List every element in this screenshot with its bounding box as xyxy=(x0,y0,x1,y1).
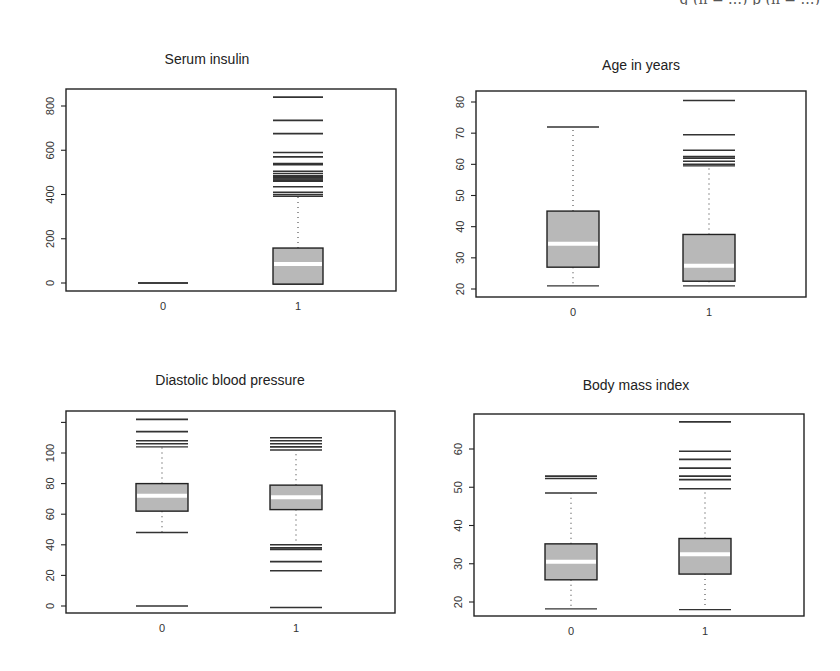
x-category-label: 0 xyxy=(159,622,165,634)
plot-frame xyxy=(474,414,804,616)
box-group-1: 1 xyxy=(273,97,323,312)
iqr-box xyxy=(547,211,599,267)
panel-diastolic-blood-pressure: Diastolic blood pressure02040608010001 xyxy=(44,372,395,634)
panel-body-mass-index: Body mass index203040506001 xyxy=(452,377,804,637)
box-group-0: 0 xyxy=(545,476,597,637)
box-group-1: 1 xyxy=(270,438,322,634)
y-tick-label: 60 xyxy=(44,508,56,520)
panel-title: Diastolic blood pressure xyxy=(155,372,305,388)
x-category-label: 1 xyxy=(293,622,299,634)
y-tick-label: 600 xyxy=(44,141,56,159)
x-category-label: 0 xyxy=(160,300,166,312)
y-tick-label: 30 xyxy=(454,252,466,264)
y-tick-label: 40 xyxy=(44,539,56,551)
panel-title: Age in years xyxy=(602,57,680,73)
boxplot-figure: Serum insulin020040060080001Age in years… xyxy=(0,0,840,671)
y-tick-label: 30 xyxy=(452,558,464,570)
y-tick-label: 200 xyxy=(44,230,56,248)
y-tick-label: 400 xyxy=(44,185,56,203)
iqr-box xyxy=(683,234,735,281)
y-tick-label: 20 xyxy=(44,569,56,581)
plot-frame xyxy=(66,89,396,291)
y-tick-label: 80 xyxy=(454,96,466,108)
box-group-0: 0 xyxy=(138,283,188,312)
box-group-1: 1 xyxy=(679,422,731,637)
panel-title: Serum insulin xyxy=(165,51,250,67)
y-tick-label: 800 xyxy=(44,97,56,115)
x-category-label: 0 xyxy=(568,625,574,637)
y-tick-label: 60 xyxy=(454,158,466,170)
y-tick-label: 100 xyxy=(44,444,56,462)
x-category-label: 1 xyxy=(706,306,712,318)
y-tick-label: 20 xyxy=(454,283,466,295)
y-tick-label: 0 xyxy=(44,280,56,286)
iqr-box xyxy=(273,248,323,284)
plot-frame xyxy=(66,411,395,613)
x-category-label: 0 xyxy=(570,306,576,318)
y-tick-label: 50 xyxy=(454,189,466,201)
panel-age-in-years: Age in years2030405060708001 xyxy=(454,57,806,318)
y-tick-label: 50 xyxy=(452,481,464,493)
x-category-label: 1 xyxy=(295,300,301,312)
box-group-0: 0 xyxy=(136,419,188,634)
y-tick-label: 40 xyxy=(454,221,466,233)
panel-title: Body mass index xyxy=(583,377,690,393)
y-tick-label: 80 xyxy=(44,477,56,489)
panel-serum-insulin: Serum insulin020040060080001 xyxy=(44,51,396,312)
x-category-label: 1 xyxy=(702,625,708,637)
plot-frame xyxy=(476,91,806,297)
y-tick-label: 20 xyxy=(452,596,464,608)
y-tick-label: 40 xyxy=(452,519,464,531)
iqr-box xyxy=(679,539,731,575)
y-tick-label: 0 xyxy=(44,603,56,609)
box-group-1: 1 xyxy=(683,100,735,318)
box-group-0: 0 xyxy=(547,127,599,318)
y-tick-label: 70 xyxy=(454,127,466,139)
y-tick-label: 60 xyxy=(452,443,464,455)
